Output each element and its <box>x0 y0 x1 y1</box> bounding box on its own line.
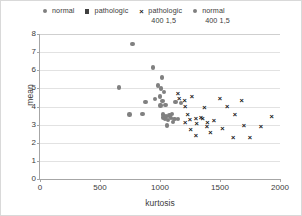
legend-item-label: pathologic <box>95 6 129 16</box>
scatter-chart: normalpathologic×pathologic400 1,5normal… <box>0 0 302 216</box>
y-tick-label: 1 <box>22 156 36 165</box>
y-axis-ticks: 012345678 <box>40 34 280 179</box>
legend-item-label: normal <box>52 6 75 16</box>
x-tick-label: 0 <box>20 183 60 192</box>
x-tick-label: 1500 <box>200 183 240 192</box>
x-tick-mark <box>160 179 161 182</box>
legend-item[interactable]: ×pathologic400 1,5 <box>137 6 182 25</box>
x-tick-mark <box>40 179 41 182</box>
y-axis-title: mean <box>25 75 35 115</box>
chart-legend: normalpathologic×pathologic400 1,5normal… <box>41 6 291 30</box>
x-marker-icon: × <box>137 6 146 18</box>
x-tick-label: 2000 <box>260 183 300 192</box>
y-tick-mark <box>37 88 40 89</box>
y-tick-mark <box>37 125 40 126</box>
legend-item[interactable]: normal <box>41 6 75 18</box>
x-tick-mark <box>220 179 221 182</box>
x-tick-mark <box>100 179 101 182</box>
y-tick-mark <box>37 34 40 35</box>
x-tick-mark <box>280 179 281 182</box>
legend-item-sublabel: 400 1,5 <box>202 16 230 26</box>
x-axis-title: kurtosis <box>40 198 280 208</box>
y-tick-mark <box>37 70 40 71</box>
x-tick-label: 500 <box>80 183 120 192</box>
y-tick-label: 0 <box>22 174 36 183</box>
square-marker-icon <box>84 6 93 18</box>
y-tick-label: 2 <box>22 138 36 147</box>
y-tick-mark <box>37 107 40 108</box>
legend-item[interactable]: normal400 1,5 <box>191 6 230 25</box>
y-tick-label: 3 <box>22 120 36 129</box>
y-tick-mark <box>37 52 40 53</box>
y-tick-label: 8 <box>22 29 36 38</box>
legend-item[interactable]: pathologic <box>84 6 129 18</box>
circle-marker-icon <box>191 6 200 18</box>
y-tick-mark <box>37 143 40 144</box>
y-tick-mark <box>37 161 40 162</box>
x-tick-label: 1000 <box>140 183 180 192</box>
y-tick-label: 6 <box>22 65 36 74</box>
legend-item-label: pathologic400 1,5 <box>148 6 182 25</box>
y-tick-label: 7 <box>22 47 36 56</box>
legend-item-sublabel: 400 1,5 <box>148 16 182 26</box>
plot-area: 012345678 0500100015002000 ×××××××××××××… <box>39 34 280 179</box>
legend-item-label: normal400 1,5 <box>202 6 230 25</box>
circle-marker-icon <box>41 6 50 18</box>
